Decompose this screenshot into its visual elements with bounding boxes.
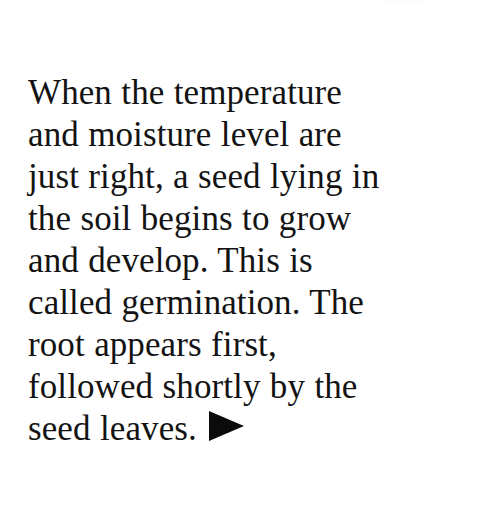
- text-line-6: called germination. The: [28, 282, 458, 324]
- last-line-row: seed leaves.: [28, 408, 458, 450]
- text-line-2: and moisture level are: [28, 114, 458, 156]
- body-passage: When the temperature and moisture level …: [28, 72, 458, 450]
- text-line-9: seed leaves.: [28, 408, 197, 450]
- text-line-4: the soil begins to grow: [28, 198, 458, 240]
- text-line-1: When the temperature: [28, 72, 458, 114]
- text-line-5: and develop. This is: [28, 240, 458, 282]
- text-line-7: root appears first,: [28, 324, 458, 366]
- text-line-3: just right, a seed lying in: [28, 156, 458, 198]
- document-page: When the temperature and moisture level …: [0, 0, 480, 508]
- text-line-8: followed shortly by the: [28, 366, 458, 408]
- right-pointing-triangle-icon: [209, 411, 244, 441]
- scan-artifact: [382, 0, 424, 4]
